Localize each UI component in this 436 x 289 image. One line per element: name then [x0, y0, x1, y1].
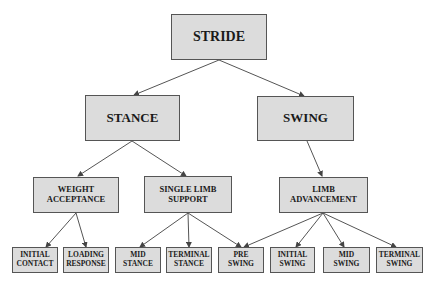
node-pre-swing: PRE SWING — [218, 247, 264, 273]
node-label: MID SWING — [334, 251, 360, 268]
node-terminal-swing: TERMINAL SWING — [376, 247, 423, 273]
node-stance: STANCE — [85, 95, 180, 141]
node-limb-advancement: LIMB ADVANCEMENT — [279, 177, 368, 213]
node-initial-swing: INITIAL SWING — [270, 247, 315, 273]
node-label: LIMB ADVANCEMENT — [290, 185, 357, 205]
node-label: WEIGHT ACCEPTANCE — [47, 185, 105, 205]
node-label: MID STANCE — [123, 251, 153, 268]
node-label: STRIDE — [193, 29, 245, 45]
node-mid-swing: MID SWING — [323, 247, 370, 273]
node-single-limb-support: SINGLE LIMB SUPPORT — [144, 176, 232, 213]
node-label: PRE SWING — [228, 251, 254, 268]
node-label: INITIAL CONTACT — [17, 251, 54, 268]
node-label: TERMINAL STANCE — [168, 251, 209, 268]
node-terminal-stance: TERMINAL STANCE — [166, 247, 212, 273]
node-label: INITIAL SWING — [278, 251, 308, 268]
node-label: STANCE — [107, 111, 159, 126]
node-stride: STRIDE — [171, 14, 267, 60]
node-label: SINGLE LIMB SUPPORT — [160, 185, 217, 205]
node-label: LOADING RESPONSE — [66, 251, 106, 268]
node-initial-contact: INITIAL CONTACT — [12, 247, 58, 273]
node-label: TERMINAL SWING — [379, 251, 420, 268]
node-label: SWING — [283, 111, 328, 126]
node-loading-response: LOADING RESPONSE — [63, 247, 109, 273]
node-mid-stance: MID STANCE — [115, 247, 161, 273]
node-swing: SWING — [257, 96, 354, 141]
node-weight-acceptance: WEIGHT ACCEPTANCE — [33, 177, 119, 213]
